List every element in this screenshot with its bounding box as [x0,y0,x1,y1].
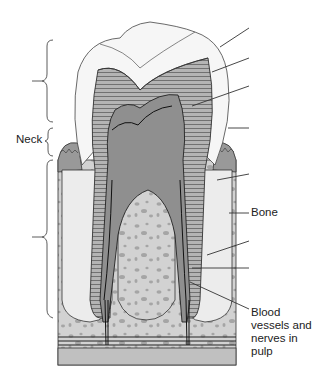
bone-label: Bone [251,206,278,219]
blood-vessels-label: Blood vessels and nerves in pulp [251,306,315,358]
periodontal-ligament [62,170,232,322]
neck-label: Neck [16,133,42,146]
left-brackets [32,40,53,318]
